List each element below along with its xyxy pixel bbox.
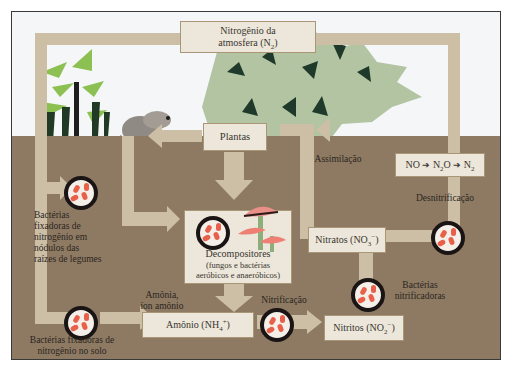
chain-no: NO xyxy=(405,159,419,170)
legume-bacteria-line: nitrogênio em xyxy=(34,232,114,243)
nitrifying-bacteria-label: Bactérias nitrificadoras xyxy=(390,280,450,302)
nitrites-label: Nitritos (NO xyxy=(333,322,384,333)
nitrates-subscript: 3 xyxy=(368,240,372,248)
legume-bacteria-line: fixadoras de xyxy=(34,221,114,232)
decomposers-desc-line2: aeróbicos e anaeróbicos) xyxy=(196,270,280,280)
bacteria-nodule-icon xyxy=(64,176,98,210)
soil-bacteria-line: Bactérias fixadoras de xyxy=(18,335,126,346)
decomposers-desc-line1: (fungos e bactérias xyxy=(206,260,270,270)
atmosphere-close-paren: ) xyxy=(274,37,277,48)
chain-n2: N xyxy=(464,159,471,170)
nitrites-subscript: 2 xyxy=(384,328,388,336)
legume-bacteria-line: raízes de legumes xyxy=(34,254,114,265)
chain-n2-subscript: 2 xyxy=(471,165,475,173)
ammonia-line: íon amônio xyxy=(132,301,192,312)
atmosphere-label-line1: Nitrogênio da xyxy=(220,25,275,36)
nitrates-box: Nitratos (NO3−) xyxy=(308,227,386,253)
soil-bacteria-line: nitrogênio no solo xyxy=(18,346,126,357)
legume-bacteria-line: nódulos das xyxy=(34,243,114,254)
denitrification-chain-box: NO ➔ N2O ➔ N2 xyxy=(395,153,485,177)
plants-label: Plantas xyxy=(220,131,250,143)
ammonium-label: Amônio (NH xyxy=(166,319,219,330)
atmosphere-label-line2: atmosfera (N xyxy=(218,37,270,48)
chain-n2o-o: O xyxy=(444,159,451,170)
ammonium-subscript: 4 xyxy=(219,325,223,333)
ammonium-close-paren: ) xyxy=(227,319,230,330)
bacteria-nitrifying-icon xyxy=(351,278,385,312)
legume-bacteria-label: Bactérias fixadoras de nitrogênio em nód… xyxy=(34,210,114,265)
arrow-right-icon: ➔ xyxy=(453,160,461,170)
nitrites-close-paren: ) xyxy=(391,322,394,333)
ammonia-label: Amônia, íon amônio xyxy=(132,290,192,312)
nitrates-label: Nitratos (NO xyxy=(315,234,368,245)
nitrogen-cycle-diagram: Nitrogênio da atmosfera (N2) Plantas Dec… xyxy=(11,11,501,360)
ammonia-line: Amônia, xyxy=(132,290,192,301)
mushroom-icon xyxy=(238,200,288,252)
denitrification-label: Desnitrificação xyxy=(410,193,480,204)
nitrifying-bacteria-line: Bactérias xyxy=(390,280,450,291)
legume-bacteria-line: Bactérias xyxy=(34,210,114,221)
soil-bacteria-label: Bactérias fixadoras de nitrogênio no sol… xyxy=(18,335,126,357)
atmosphere-nitrogen-box: Nitrogênio da atmosfera (N2) xyxy=(180,21,316,53)
nitrification-label: Nitrificação xyxy=(252,295,316,306)
bacteria-decomposer-icon xyxy=(196,216,230,250)
plants-box: Plantas xyxy=(203,123,267,151)
ammonium-box: Amônio (NH4+) xyxy=(142,312,254,338)
assimilation-label: Assimilação xyxy=(308,154,368,165)
nitrites-box: Nitritos (NO2−) xyxy=(324,315,404,341)
nitrates-close-paren: ) xyxy=(375,234,378,245)
bacteria-nitrification-icon xyxy=(260,308,294,342)
arrow-right-icon: ➔ xyxy=(422,160,430,170)
bacteria-denitrifying-icon xyxy=(431,221,465,255)
nitrifying-bacteria-line: nitrificadoras xyxy=(390,291,450,302)
